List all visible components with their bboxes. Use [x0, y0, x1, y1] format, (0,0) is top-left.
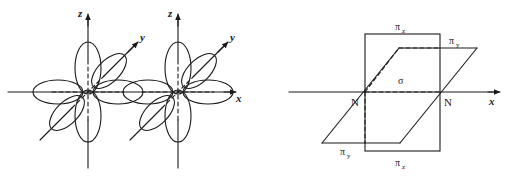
pi-y-top-base: π	[449, 35, 454, 46]
pi-y-bottom-base: π	[340, 146, 345, 157]
pi-z-top-base: π	[395, 21, 400, 32]
nitrogen-right-label: N	[444, 96, 452, 108]
x-axis-label: x	[235, 92, 242, 104]
right-panel-group	[289, 34, 500, 151]
left-panel-group	[8, 14, 236, 168]
pi-z-bottom-sub: z	[402, 163, 405, 171]
y2-axis-arrow	[218, 42, 228, 52]
pi-y-top-label: π y	[449, 35, 460, 49]
pi-z-top-sub: z	[402, 27, 405, 35]
y-axis-lower	[40, 108, 72, 140]
x-axis-label-right: x	[488, 95, 495, 107]
pi-z-bottom-base: π	[395, 157, 400, 168]
diagram-canvas: z y z y x π z π z π y π y σ N N x	[0, 0, 509, 180]
sigma-label: σ	[398, 75, 404, 86]
orbital-diagram-figure: z y z y x π z π z π y π y σ N N x	[0, 0, 509, 180]
pi-y-top-sub: y	[456, 41, 460, 49]
nitrogen-left-label: N	[351, 96, 359, 108]
pi-y-edge-right	[400, 48, 477, 143]
atom-left-group	[33, 14, 143, 168]
y-axis-label-2: y	[228, 31, 235, 43]
y-axis-arrow	[128, 42, 138, 52]
pi-z-top-label: π z	[395, 21, 405, 35]
labels-group: z y z y x π z π z π y π y σ N N x	[77, 7, 495, 171]
z-axis-label: z	[77, 7, 83, 19]
pi-z-bottom-label: π z	[395, 157, 405, 171]
y-axis-label: y	[138, 31, 145, 43]
pi-y-bottom-sub: y	[347, 152, 351, 160]
pi-y-bottom-label: π y	[340, 146, 351, 160]
z-axis-label-2: z	[167, 7, 173, 19]
y2-axis-lower	[130, 108, 162, 140]
